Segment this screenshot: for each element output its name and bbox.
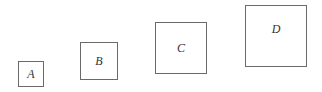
- square-d: D: [245, 5, 307, 67]
- square-c: C: [155, 22, 207, 74]
- square-b-label: B: [95, 54, 102, 69]
- square-a: A: [18, 61, 44, 87]
- square-b: B: [80, 42, 118, 80]
- square-d-label: D: [272, 22, 281, 37]
- square-a-label: A: [27, 67, 34, 82]
- square-c-label: C: [177, 41, 185, 56]
